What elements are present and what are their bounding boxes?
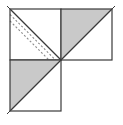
figure-diagram (0, 0, 123, 125)
cell-bottom-left (10, 60, 61, 111)
figure-root (0, 0, 123, 125)
cell-top-right (61, 9, 112, 60)
cell-top-left (10, 9, 61, 60)
